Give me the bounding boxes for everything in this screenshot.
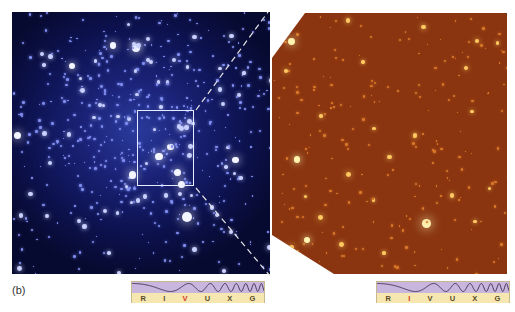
star xyxy=(333,106,335,108)
star xyxy=(269,78,270,83)
star xyxy=(342,59,344,61)
star xyxy=(252,106,254,108)
star xyxy=(191,100,192,101)
star xyxy=(198,130,201,133)
star xyxy=(371,95,372,96)
star xyxy=(63,138,64,139)
star xyxy=(266,90,267,91)
spectrum-bar-left: RIVUXG xyxy=(131,281,265,303)
star xyxy=(96,236,97,237)
star xyxy=(227,114,228,115)
star xyxy=(18,234,20,236)
star xyxy=(245,203,246,204)
star xyxy=(31,177,32,178)
star xyxy=(330,107,331,108)
star xyxy=(333,232,336,235)
star xyxy=(396,266,398,268)
star xyxy=(88,104,91,107)
star xyxy=(499,62,500,63)
star xyxy=(446,170,448,172)
star xyxy=(382,251,386,255)
star xyxy=(178,192,182,196)
star xyxy=(125,195,127,197)
star xyxy=(67,119,69,121)
star xyxy=(399,225,400,226)
star xyxy=(312,243,314,245)
star xyxy=(63,131,64,132)
star xyxy=(48,156,50,158)
star xyxy=(57,222,58,223)
star xyxy=(238,54,240,56)
star xyxy=(259,130,261,132)
star xyxy=(359,55,360,56)
star xyxy=(296,91,299,94)
star xyxy=(94,167,97,170)
star xyxy=(211,99,213,101)
star xyxy=(189,51,192,54)
star xyxy=(91,191,93,193)
star xyxy=(267,245,270,250)
star xyxy=(297,250,298,251)
band-label-r: R xyxy=(141,294,146,303)
star xyxy=(405,31,407,33)
star xyxy=(99,50,100,51)
star xyxy=(151,44,153,46)
star xyxy=(122,140,123,141)
star xyxy=(268,27,270,30)
star xyxy=(92,116,95,119)
star xyxy=(97,213,98,214)
star xyxy=(48,236,50,238)
star xyxy=(120,180,122,182)
star xyxy=(331,158,333,160)
star xyxy=(331,102,333,104)
star xyxy=(413,133,418,138)
star xyxy=(165,210,168,213)
star xyxy=(13,218,15,220)
star xyxy=(19,213,23,217)
star xyxy=(405,246,407,248)
star xyxy=(88,145,89,146)
star xyxy=(193,217,194,218)
star xyxy=(284,69,288,73)
star xyxy=(110,115,111,116)
star xyxy=(84,130,86,132)
star xyxy=(340,104,343,107)
star xyxy=(259,90,261,92)
star xyxy=(305,148,307,150)
star xyxy=(17,266,22,271)
star xyxy=(408,38,410,40)
star xyxy=(294,156,300,162)
star xyxy=(421,25,426,30)
star xyxy=(449,180,451,182)
star xyxy=(38,119,41,122)
star xyxy=(74,205,76,207)
band-label-x: X xyxy=(227,294,232,303)
star xyxy=(132,130,134,132)
star xyxy=(457,112,458,113)
star xyxy=(110,42,117,49)
star xyxy=(106,60,109,63)
band-label-v: V xyxy=(427,294,432,303)
star xyxy=(177,34,178,35)
star xyxy=(391,224,393,226)
star xyxy=(289,63,291,65)
star xyxy=(143,194,148,199)
star xyxy=(417,17,418,18)
star xyxy=(148,242,149,243)
star xyxy=(247,66,249,68)
star xyxy=(428,110,430,112)
star xyxy=(89,167,91,169)
star xyxy=(192,247,197,252)
star xyxy=(196,194,198,196)
star xyxy=(112,95,113,96)
star xyxy=(73,255,76,258)
star xyxy=(137,68,140,71)
star xyxy=(81,102,83,104)
star xyxy=(77,175,79,177)
star xyxy=(462,52,463,53)
star xyxy=(262,266,264,268)
star xyxy=(218,87,222,91)
star xyxy=(21,116,22,117)
star xyxy=(415,146,417,148)
star xyxy=(507,176,509,178)
